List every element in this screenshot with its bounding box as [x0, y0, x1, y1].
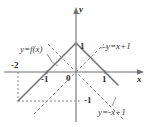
leader-line-down-label — [112, 97, 116, 106]
label-function-y-equals-f-of-x: y=f(x) — [20, 45, 43, 54]
y-axis-label: y — [79, 5, 83, 14]
tick-origin-0: 0 — [66, 74, 71, 83]
tick-y-pos1: 1 — [80, 42, 85, 51]
math-graph-figure: y x 0 -2 -1 1 1 -1 y=f(x) y=x+1 y=-x+1 — [0, 0, 148, 127]
x-axis-label: x — [137, 75, 142, 84]
tick-y-neg1: -1 — [84, 96, 92, 105]
tick-x-pos1: 1 — [102, 75, 107, 84]
label-line-y-equals-minus-x-plus-1: y=-x+1 — [98, 108, 126, 117]
tick-x-neg1: -1 — [41, 75, 49, 84]
leader-line-function-label — [47, 54, 58, 66]
y-axis-arrowhead — [73, 7, 78, 14]
tick-x-neg2: -2 — [11, 61, 19, 70]
label-line-y-equals-x-plus-1: y=x+1 — [106, 42, 131, 51]
